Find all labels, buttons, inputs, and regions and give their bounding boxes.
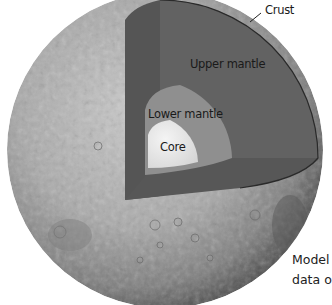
caption-line-1: Model (292, 250, 332, 270)
upper-mantle-label: Upper mantle (190, 57, 265, 71)
caption-line-2: data o (292, 270, 332, 290)
lower-mantle-label: Lower mantle (148, 107, 223, 121)
caption-text: Model data o (292, 250, 332, 290)
core-label: Core (160, 140, 185, 154)
crust-label: Crust (265, 3, 294, 17)
cutaway-wedge (125, 0, 318, 200)
